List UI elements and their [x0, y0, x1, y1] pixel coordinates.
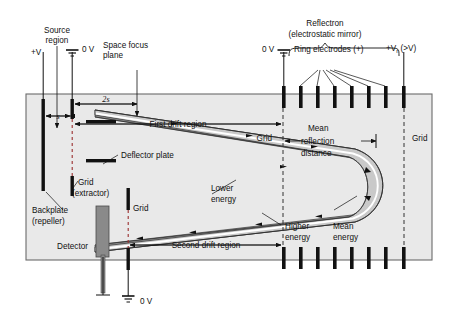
label-zero-v-bottom: 0 V — [140, 297, 153, 306]
ring-electrode-top-7 — [384, 86, 388, 108]
label-source-region-line1: Source — [44, 26, 70, 35]
label-deflector-plate: Deflector plate — [121, 151, 174, 160]
label-grid-extractor-line2: (extractor) — [72, 189, 110, 198]
label-space-focus-line2: plane — [103, 51, 123, 60]
label-higher-energy-line1: Higher — [285, 222, 309, 231]
ring-electrode-top-2 — [299, 86, 303, 108]
label-backplate-line1: Backplate — [32, 206, 68, 215]
label-reflectron-line1: Reflectron — [306, 19, 344, 28]
label-mean-energy-line2: energy — [333, 233, 359, 242]
ring-electrode-bottom-6 — [367, 247, 371, 269]
label-zero-v-right: 0 V — [262, 45, 275, 54]
reflectron-tof-diagram: Source region +V 0 V Space focus plane R… — [0, 0, 452, 325]
ring-electrode-bottom-5 — [350, 247, 354, 269]
backplate-electrode — [42, 99, 45, 191]
label-grid-top: Grid — [257, 134, 273, 143]
extractor-grid-upper — [71, 99, 74, 119]
detector-body — [96, 206, 109, 257]
ring-electrode-bottom-8 — [402, 247, 406, 269]
label-reflectron-voltage-main: +V — [386, 44, 397, 53]
label-reflectron-line2: (electrostatic mirror) — [289, 30, 362, 39]
label-zero-v-left: 0 V — [82, 45, 95, 54]
ring-electrode-top-8 — [402, 86, 406, 108]
label-higher-energy-line2: energy — [285, 233, 311, 242]
label-second-drift-region: Second drift region — [172, 241, 241, 250]
ring-electrode-bottom-4 — [333, 247, 337, 269]
ring-electrode-top-4 — [333, 86, 337, 108]
ring-electrode-bottom-2 — [299, 247, 303, 269]
label-ring-electrodes: Ring electrodes (+) — [294, 45, 364, 54]
label-mean-reflection-line3: distance — [301, 149, 332, 158]
label-dim-s: s — [56, 112, 59, 121]
ring-electrode-bottom-7 — [384, 247, 388, 269]
label-source-region-line2: region — [46, 36, 69, 45]
label-grid-right: Grid — [412, 134, 428, 143]
label-reflectron-voltage: +Vr (>V) — [386, 44, 416, 54]
label-lower-energy-line2: energy — [211, 195, 237, 204]
ring-electrode-top-3 — [316, 86, 320, 108]
deflector-plate-upper — [86, 120, 116, 123]
label-mean-energy-line1: Mean — [333, 222, 354, 231]
label-mean-reflection-line2: reflection — [301, 137, 335, 146]
label-first-drift-region: First drift region — [150, 120, 207, 129]
detector-grid-lower — [127, 248, 130, 270]
label-grid-detector: Grid — [133, 204, 149, 213]
ring-electrode-top-1 — [282, 86, 286, 108]
label-grid-extractor-line1: Grid — [78, 178, 94, 187]
label-mean-reflection-line1: Mean — [308, 124, 329, 133]
label-reflectron-voltage-tail: (>V) — [398, 44, 416, 53]
figure-canvas: Source region +V 0 V Space focus plane R… — [0, 0, 452, 325]
label-plus-v: +V — [31, 48, 42, 57]
label-dim-2s: 2s — [102, 95, 109, 104]
label-detector: Detector — [57, 242, 88, 251]
ring-electrode-bottom-1 — [282, 247, 286, 269]
label-space-focus-line1: Space focus — [103, 41, 148, 50]
label-backplate-line2: (repeller) — [32, 217, 65, 226]
detector-grid-upper — [127, 188, 130, 210]
deflector-plate-lower — [86, 159, 116, 162]
label-lower-energy-line1: Lower — [211, 184, 234, 193]
ring-electrode-bottom-3 — [316, 247, 320, 269]
ring-electrode-top-5 — [350, 86, 354, 108]
ring-electrode-top-6 — [367, 86, 371, 108]
